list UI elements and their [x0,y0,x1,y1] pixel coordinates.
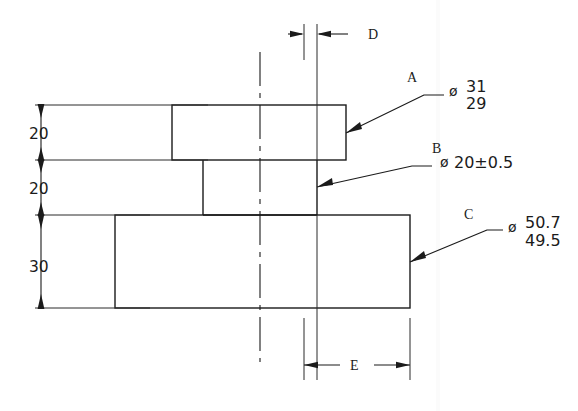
arrow-head-down-1 [38,104,45,118]
callout-c-group: C ø 50.7 49.5 [410,207,561,262]
drawing-canvas: 20 20 30 D E [0,0,578,411]
arrow-head-down-2 [38,159,45,173]
dim-value-height-1: 20 [29,125,49,143]
dimension-d-group: D [288,24,378,60]
arrow-head-c [410,251,426,262]
arrow-head-up-3 [38,294,45,309]
dimension-label-d: D [368,27,378,42]
arrow-head-b [317,178,333,187]
arrow-head-left-e [304,362,318,368]
top-flange-rect [172,105,346,160]
engineering-drawing-sheet: 20 20 30 D E [0,0,578,411]
dimension-label-e: E [350,358,359,373]
arrow-head-left-d-right [317,31,331,37]
arrow-head-right-e [396,362,410,368]
callout-value-c-lower: 49.5 [525,231,561,250]
callout-value-c-upper: 50.7 [525,213,561,232]
diameter-symbol-a: ø [449,83,458,99]
callout-value-b: 20±0.5 [454,153,513,172]
arrow-head-up-2 [38,202,45,216]
dim-value-height-3: 30 [29,258,49,276]
base-rect [115,215,410,308]
diameter-symbol-c: ø [508,219,517,235]
arrow-head-a [346,122,362,133]
diameter-symbol-b: ø [440,154,449,170]
arrow-head-down-3 [38,214,45,229]
dim-value-height-2: 20 [29,180,49,198]
arrow-head-right-d-left [290,31,304,37]
callout-a-group: A ø 31 29 [346,70,486,133]
arrow-head-up-1 [38,147,45,161]
dimension-e-group: E [304,318,410,380]
leader-line-b [317,166,432,187]
callout-value-a-lower: 29 [466,94,486,113]
callout-label-a: A [407,70,418,85]
left-dimension-group: 20 20 30 [29,104,208,309]
callout-label-c: C [464,207,473,222]
part-geometry [115,105,410,308]
